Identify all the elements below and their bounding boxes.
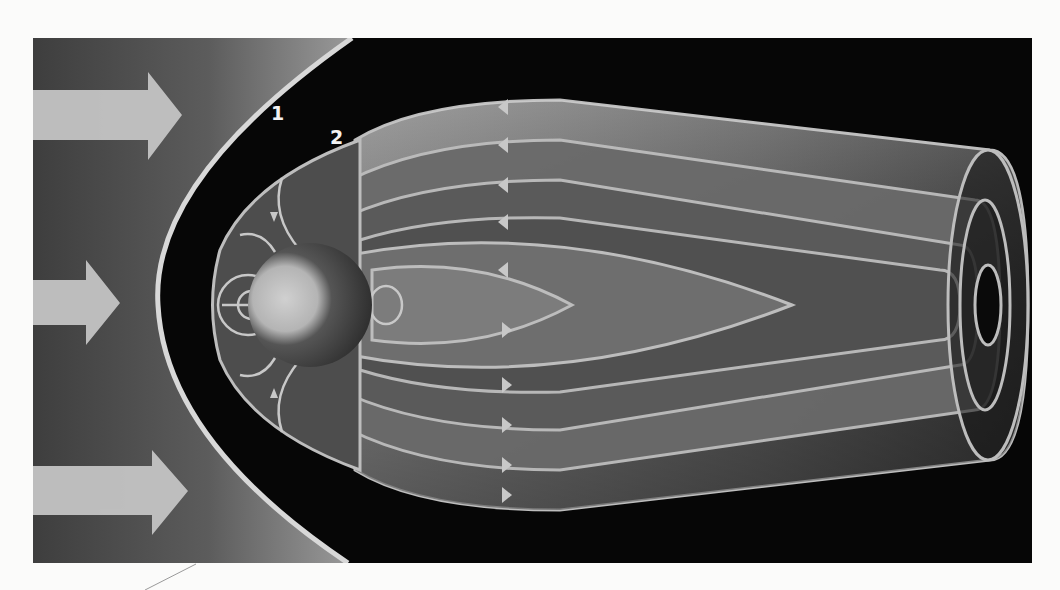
tail-cross-section: [948, 150, 1028, 460]
stray-line: [145, 564, 196, 590]
magnetosphere-diagram: [0, 0, 1060, 590]
earth: [248, 243, 372, 367]
magnetotail: [350, 100, 1028, 510]
label-bow-shock: 1: [271, 104, 284, 123]
label-magnetopause: 2: [330, 128, 343, 147]
